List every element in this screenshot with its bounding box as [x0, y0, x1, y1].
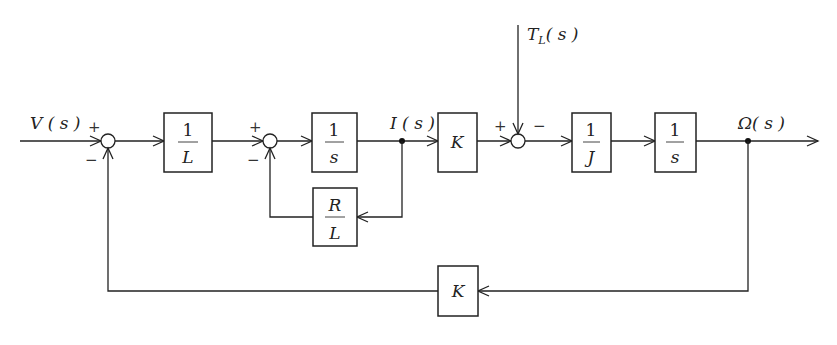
summing-junction-2 — [263, 134, 277, 148]
block-integrator-1-denominator: s — [330, 147, 339, 167]
block-inverse-J-numerator: 1 — [586, 120, 597, 140]
sum-3-plus-sign: + — [494, 117, 507, 135]
wire-current-to-RL — [357, 141, 402, 217]
block-feedback-K-label: K — [451, 281, 466, 301]
sum-1-minus-sign: − — [85, 151, 98, 169]
summing-junction-3 — [511, 134, 525, 148]
wire-feedback-K-to-sum1 — [108, 148, 438, 291]
wire-output-to-feedback-K — [478, 141, 748, 291]
block-feedback-R-over-L-denominator: L — [328, 223, 340, 243]
disturbance-signal-label: TL( s ) — [527, 24, 578, 47]
block-gain-K-label: K — [450, 132, 465, 152]
block-diagram: V ( s ) + − 1 L + − 1 s I ( s ) R L K + … — [0, 0, 837, 345]
block-integrator-2-denominator: s — [671, 147, 680, 167]
block-integrator-2-numerator: 1 — [670, 120, 681, 140]
sum-2-plus-sign: + — [249, 118, 262, 136]
block-inverse-L-numerator: 1 — [183, 120, 194, 140]
summing-junction-1 — [101, 134, 115, 148]
wire-RL-to-sum2 — [270, 148, 313, 217]
sum-2-minus-sign: − — [247, 151, 260, 169]
output-signal-label: Ω( s ) — [737, 113, 785, 133]
current-signal-label: I ( s ) — [389, 113, 435, 133]
block-feedback-R-over-L-numerator: R — [328, 195, 342, 215]
input-signal-label: V ( s ) — [30, 113, 80, 133]
sum-3-minus-sign: − — [533, 117, 546, 135]
sum-1-plus-sign: + — [88, 118, 101, 136]
block-inverse-L-denominator: L — [181, 147, 193, 167]
block-integrator-1-numerator: 1 — [329, 120, 340, 140]
